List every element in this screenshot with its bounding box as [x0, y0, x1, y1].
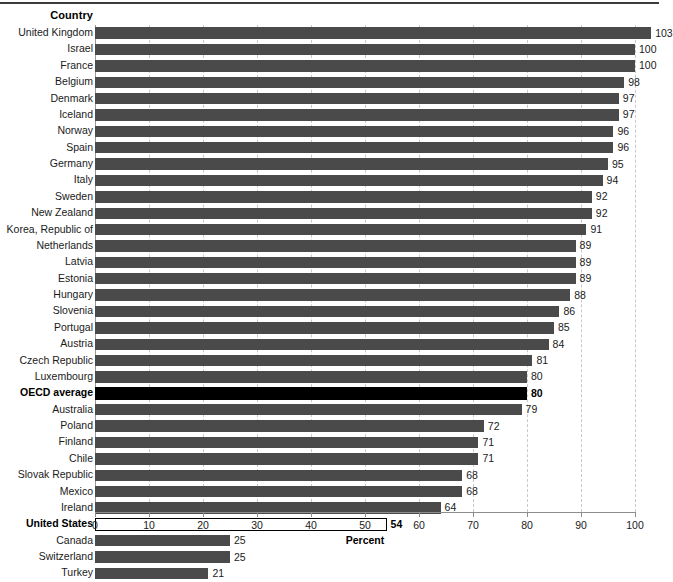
bar-label: Israel [0, 42, 93, 55]
x-tick-label-0: 0 [75, 519, 115, 531]
x-tick-20 [203, 512, 204, 517]
bar-value-label: 79 [526, 403, 538, 416]
bar-value-label: 94 [607, 174, 619, 187]
bar-label: Hungary [0, 288, 93, 301]
bar-row: Chile71 [0, 451, 659, 467]
x-tick-label-90: 90 [561, 519, 601, 531]
x-tick-100 [635, 512, 636, 517]
bar-rows: United Kingdom103Israel100France100Belgi… [0, 25, 659, 582]
bar [95, 126, 613, 137]
bar-label: Spain [0, 141, 93, 154]
bar-row: Finland71 [0, 434, 659, 450]
bar-value-label: 92 [596, 207, 608, 220]
x-tick-60 [419, 512, 420, 517]
bar-row: Denmark97 [0, 91, 659, 107]
bar [95, 437, 478, 448]
bar-row: Norway96 [0, 123, 659, 139]
bar [95, 453, 478, 464]
bar [95, 404, 522, 415]
x-tick-label-10: 10 [129, 519, 169, 531]
bar-row: Turkey21 [0, 565, 659, 581]
bar-row: Germany95 [0, 156, 659, 172]
bar-row: Switzerland25 [0, 549, 659, 565]
bar [95, 77, 624, 88]
bar [95, 339, 549, 350]
bar-row: France100 [0, 58, 659, 74]
bar [95, 420, 484, 431]
bar-label: Mexico [0, 485, 93, 498]
x-tick-label-80: 80 [507, 519, 547, 531]
bar-label: Switzerland [0, 550, 93, 563]
bar-value-label: 88 [574, 289, 586, 302]
bar-row: Latvia89 [0, 254, 659, 270]
bar-label: United Kingdom [0, 26, 93, 39]
bar-label: Slovenia [0, 304, 93, 317]
x-tick-label-20: 20 [183, 519, 223, 531]
bar-row: Poland72 [0, 418, 659, 434]
bar-value-label: 89 [580, 256, 592, 269]
bar [95, 387, 527, 400]
x-tick-label-30: 30 [237, 519, 277, 531]
bar [95, 306, 559, 317]
bar-row: Sweden92 [0, 189, 659, 205]
x-tick-label-40: 40 [291, 519, 331, 531]
bar-value-label: 97 [623, 92, 635, 105]
bar-row: Slovenia86 [0, 303, 659, 319]
bar-value-label: 21 [212, 567, 224, 580]
bar-row: Australia79 [0, 402, 659, 418]
bar-label: Iceland [0, 108, 93, 121]
bar-row: Spain96 [0, 140, 659, 156]
bar-row: United Kingdom103 [0, 25, 659, 41]
bar [95, 322, 554, 333]
bar-label: OECD average [0, 386, 93, 399]
bar-label: Belgium [0, 75, 93, 88]
column-header-country: Country [0, 9, 93, 21]
bar-label: Finland [0, 435, 93, 448]
bar-label: Latvia [0, 255, 93, 268]
bar [95, 470, 462, 481]
x-tick-label-60: 60 [399, 519, 439, 531]
bar-row: Iceland97 [0, 107, 659, 123]
bar-label: Canada [0, 534, 93, 547]
bar-value-label: 96 [617, 125, 629, 138]
bar-value-label: 89 [580, 272, 592, 285]
bar-row: Netherlands89 [0, 238, 659, 254]
bar-label: Slovak Republic [0, 468, 93, 481]
bar-value-label: 68 [466, 469, 478, 482]
x-tick-0 [95, 512, 96, 517]
bar [95, 142, 613, 153]
bar [95, 568, 208, 579]
bar-value-label: 100 [639, 43, 657, 56]
bar-label: Poland [0, 419, 93, 432]
bar [95, 257, 576, 268]
bar-row: New Zealand92 [0, 205, 659, 221]
bar-label: Australia [0, 403, 93, 416]
bar-label: Estonia [0, 272, 93, 285]
bar [95, 371, 527, 382]
bar-row: Belgium98 [0, 74, 659, 90]
bar-value-label: 68 [466, 485, 478, 498]
x-tick-80 [527, 512, 528, 517]
bar-row: Czech Republic81 [0, 353, 659, 369]
top-horizontal-rule [0, 2, 659, 4]
bar-row: Slovak Republic68 [0, 467, 659, 483]
bar-value-label: 97 [623, 108, 635, 121]
bar [95, 93, 619, 104]
x-axis-title: Percent [95, 534, 635, 546]
bar-row: Israel100 [0, 41, 659, 57]
bar [95, 273, 576, 284]
bar-value-label: 96 [617, 141, 629, 154]
x-tick-40 [311, 512, 312, 517]
bar-label: Portugal [0, 321, 93, 334]
bar-row: Ireland64 [0, 500, 659, 516]
x-tick-50 [365, 512, 366, 517]
bar [95, 551, 230, 562]
bar-label: Austria [0, 337, 93, 350]
x-tick-90 [581, 512, 582, 517]
bar-label: Chile [0, 452, 93, 465]
bar-label: New Zealand [0, 206, 93, 219]
bar-row: Portugal85 [0, 320, 659, 336]
x-tick-label-70: 70 [453, 519, 493, 531]
bar-value-label: 95 [612, 158, 624, 171]
